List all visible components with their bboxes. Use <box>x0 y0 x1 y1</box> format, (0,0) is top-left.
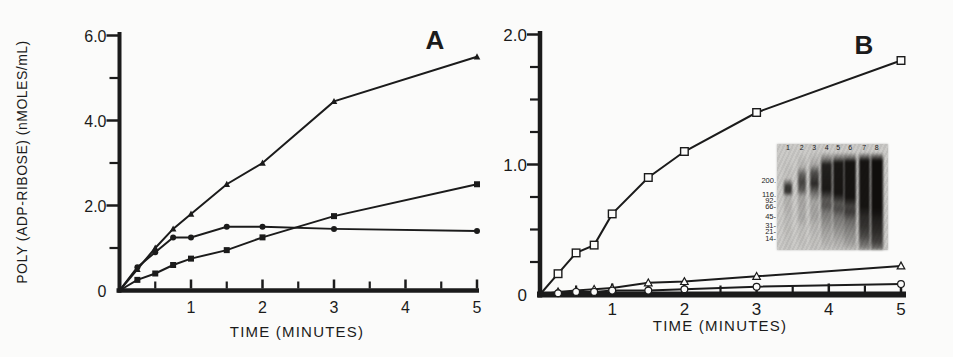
panel-a-filled-triangle-point <box>474 53 481 59</box>
panel-a-filled-square-point <box>331 213 337 219</box>
panel-b-y-tick-label: 2.0 <box>503 26 527 45</box>
panel-b-open-circle-point <box>645 287 652 294</box>
panel-a-x-tick-label: 3 <box>330 299 339 316</box>
gel-lane-number: 5 <box>836 144 840 152</box>
panel-a-filled-circle-point <box>188 234 194 240</box>
gel-mw-label: 14- <box>765 235 776 243</box>
panel-b-open-square-point <box>681 148 689 156</box>
panel-a-filled-square-point <box>224 247 230 253</box>
panel-b-open-square-point <box>645 174 653 182</box>
gel-lane-smear <box>784 153 792 250</box>
panel-a-series-filled-triangle-markers <box>134 53 480 272</box>
panel-a-y-tick-label: 0 <box>98 283 107 300</box>
gel-lane-number: 6 <box>848 144 852 152</box>
panel-b-open-circle-point <box>681 286 688 293</box>
panel-a-x-tick-label: 4 <box>401 299 410 316</box>
panel-b-x-tick-label: 5 <box>896 300 905 319</box>
gel-inset: 12345678 200.116.92-66-45-31-21-14- <box>752 138 894 254</box>
panel-a-filled-square-point <box>188 256 194 262</box>
panel-b-open-circle-point <box>573 289 580 296</box>
gel-lane-number: 8 <box>875 144 879 152</box>
panel-a-filled-circle-point <box>170 234 176 240</box>
panel-b-open-square-point <box>590 241 598 249</box>
panel-b-open-circle-point <box>591 289 598 296</box>
panel-b-open-square-point <box>554 270 562 278</box>
panel-a-x-tick-label: 1 <box>187 299 196 316</box>
panel-b-open-circle-point <box>609 287 616 294</box>
gel-lane-smear <box>859 153 870 250</box>
panel-a-label: A <box>426 25 445 55</box>
panel-a-filled-circle-point <box>224 224 230 230</box>
figure-canvas: 02.04.06.012345 01.02.012345 POLY (ADP-R… <box>0 0 953 357</box>
panel-b-open-circle-point <box>753 283 760 290</box>
panel-b-x-axis-title: TIME (MINUTES) <box>653 317 787 334</box>
panel-a-filled-circle-point <box>331 226 337 232</box>
gel-lane-number: 1 <box>786 144 790 152</box>
panel-a-filled-square-point <box>152 271 158 277</box>
gel-lane-number: 3 <box>812 144 816 152</box>
gel-lane-smear <box>871 153 883 250</box>
panel-b-open-circle-point <box>555 290 562 297</box>
panel-b-open-square-point <box>753 109 761 117</box>
panel-a-filled-square-point <box>134 277 140 283</box>
panel-b-open-square-point <box>897 57 905 65</box>
panel-a-y-tick-label: 4.0 <box>84 113 106 130</box>
gel-mw-label: 45- <box>765 213 776 221</box>
panel-b-y-tick-label: 1.0 <box>503 156 527 175</box>
panel-b-x-tick-label: 1 <box>607 300 616 319</box>
panel-a-filled-square-point <box>474 181 480 187</box>
panel-a-x-tick-label: 2 <box>258 299 267 316</box>
panel-b-label: B <box>855 30 874 60</box>
panel-b-x-tick-label: 3 <box>752 300 761 319</box>
gel-lane-smear <box>821 153 832 250</box>
panel-a-filled-circle-point <box>474 228 480 234</box>
gel-lane-smear <box>798 153 806 250</box>
gel-image: 12345678 <box>777 144 888 250</box>
panel-b-y-tick-label: 0 <box>518 286 527 305</box>
gel-mw-label: 200. <box>761 177 776 185</box>
gel-lane-smear <box>844 153 856 250</box>
panel-a: 02.04.06.012345 <box>84 28 481 316</box>
gel-lane-smear <box>810 153 819 250</box>
gel-lane-smear <box>833 153 844 250</box>
panel-b-x-ticks: 12345 <box>576 284 906 319</box>
panel-a-series-filled-triangle-line <box>120 57 478 291</box>
panel-a-filled-circle-point <box>260 224 266 230</box>
gel-lane-number: 4 <box>825 144 829 152</box>
panel-a-x-axis-title: TIME (MINUTES) <box>230 323 364 340</box>
panel-a-y-axis-title: POLY (ADP-RIBOSE) (nMOLES/mL) <box>14 40 30 283</box>
panel-b-y-ticks: 01.02.0 <box>503 26 538 305</box>
gel-lane-number: 2 <box>800 144 804 152</box>
panel-a-filled-circle-point <box>152 249 158 255</box>
panel-b-open-square-point <box>572 249 580 257</box>
panel-a-x-tick-label: 5 <box>473 299 482 316</box>
panel-b-x-tick-label: 2 <box>680 300 689 319</box>
panel-a-x-ticks: 12345 <box>155 280 481 316</box>
panel-a-series-filled-square-markers <box>134 181 480 283</box>
panel-b-open-circle-point <box>898 281 905 288</box>
panel-a-filled-square-point <box>170 262 176 268</box>
panel-a-filled-circle-point <box>134 264 140 270</box>
panel-a-filled-square-point <box>260 234 266 240</box>
panel-a-y-tick-label: 2.0 <box>84 198 106 215</box>
panel-b-open-square-point <box>608 210 616 218</box>
panel-a-y-ticks: 02.04.06.0 <box>84 28 118 300</box>
gel-lane-number: 7 <box>862 144 866 152</box>
panel-b-x-tick-label: 4 <box>824 300 833 319</box>
panel-a-y-tick-label: 6.0 <box>84 28 106 45</box>
gel-mw-label: 66- <box>765 203 776 211</box>
